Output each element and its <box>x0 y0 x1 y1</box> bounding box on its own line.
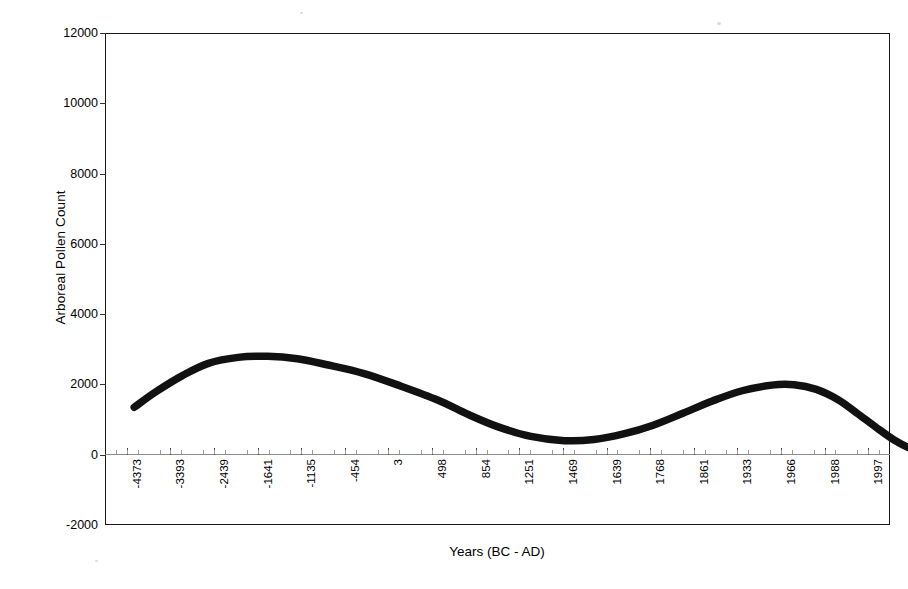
x-minor-tick <box>247 450 248 454</box>
y-tick-label: 0 <box>0 448 98 462</box>
chart-figure: Arboreal Pollen Count 120001000080006000… <box>0 0 908 589</box>
x-minor-tick <box>617 450 618 454</box>
y-tick-mark <box>100 103 106 104</box>
x-minor-tick <box>203 450 204 454</box>
y-tick-mark <box>100 384 106 385</box>
x-minor-tick <box>694 450 695 454</box>
x-minor-tick <box>225 450 226 454</box>
x-minor-tick <box>781 450 782 454</box>
x-minor-tick <box>792 450 793 454</box>
y-tick-label: 6000 <box>0 237 98 251</box>
x-minor-tick <box>530 450 531 454</box>
x-minor-tick <box>705 450 706 454</box>
x-minor-tick <box>737 450 738 454</box>
x-tick-label: 1251 <box>524 459 536 485</box>
x-minor-tick <box>388 450 389 454</box>
x-minor-tick <box>476 450 477 454</box>
y-tick-label: 12000 <box>0 26 98 40</box>
y-axis-ticks: 120001000080006000400020000-2000 <box>0 0 908 589</box>
x-minor-tick <box>465 450 466 454</box>
x-minor-tick <box>868 450 869 454</box>
x-minor-tick <box>650 450 651 454</box>
y-tick-label: 4000 <box>0 307 98 321</box>
x-tick-label: -1641 <box>263 459 275 488</box>
x-minor-tick <box>607 450 608 454</box>
x-minor-tick <box>290 450 291 454</box>
x-minor-tick <box>814 450 815 454</box>
x-minor-tick <box>127 450 128 454</box>
y-tick-mark <box>100 314 106 315</box>
x-tick-label: 1997 <box>873 459 885 485</box>
x-minor-tick <box>443 450 444 454</box>
x-minor-tick <box>487 450 488 454</box>
x-minor-tick <box>258 450 259 454</box>
x-minor-tick <box>334 450 335 454</box>
x-minor-tick <box>563 450 564 454</box>
x-tick-label: -4373 <box>132 459 144 488</box>
x-minor-tick <box>399 450 400 454</box>
x-minor-tick <box>639 450 640 454</box>
x-tick-label: 1639 <box>612 459 624 485</box>
x-minor-tick <box>138 450 139 454</box>
x-minor-tick <box>301 450 302 454</box>
y-tick-label: 8000 <box>0 167 98 181</box>
x-tick-label: 1933 <box>742 459 754 485</box>
x-tick-label: 1861 <box>699 459 711 485</box>
x-minor-tick <box>269 450 270 454</box>
y-tick-mark <box>100 244 106 245</box>
x-minor-tick <box>508 450 509 454</box>
x-minor-tick <box>857 450 858 454</box>
y-tick-label: 10000 <box>0 96 98 110</box>
x-tick-label: -1135 <box>306 459 318 488</box>
x-minor-tick <box>432 450 433 454</box>
x-minor-tick <box>116 450 117 454</box>
x-minor-tick <box>879 450 880 454</box>
x-tick-label: -454 <box>350 459 362 482</box>
y-tick-label: 2000 <box>0 377 98 391</box>
x-minor-tick <box>421 450 422 454</box>
x-tick-label: 1768 <box>655 459 667 485</box>
x-tick-label: 498 <box>437 459 449 478</box>
x-minor-tick <box>770 450 771 454</box>
x-minor-tick <box>726 450 727 454</box>
x-tick-label: 1966 <box>786 459 798 485</box>
y-tick-mark <box>100 33 106 34</box>
x-axis-title: Years (BC - AD) <box>0 544 908 559</box>
x-minor-tick <box>825 450 826 454</box>
x-tick-label: 854 <box>481 459 493 478</box>
x-tick-label: 3 <box>393 459 405 465</box>
x-tick-label: -2439 <box>219 459 231 488</box>
x-minor-tick <box>596 450 597 454</box>
x-minor-tick <box>356 450 357 454</box>
x-minor-tick <box>574 450 575 454</box>
x-axis-title-text: Years (BC - AD) <box>363 544 545 559</box>
x-minor-tick <box>181 450 182 454</box>
x-minor-tick <box>214 450 215 454</box>
x-minor-tick <box>345 450 346 454</box>
y-tick-mark <box>100 174 106 175</box>
y-tick-label: -2000 <box>0 518 98 532</box>
x-minor-tick <box>748 450 749 454</box>
x-minor-tick <box>160 450 161 454</box>
x-minor-tick <box>835 450 836 454</box>
x-minor-tick <box>312 450 313 454</box>
x-tick-label: 1988 <box>830 459 842 485</box>
x-minor-tick <box>683 450 684 454</box>
x-minor-tick <box>552 450 553 454</box>
x-tick-label: -3393 <box>175 459 187 488</box>
y-tick-mark <box>100 455 106 456</box>
x-minor-tick <box>661 450 662 454</box>
x-tick-label: 1469 <box>568 459 580 485</box>
x-minor-tick <box>519 450 520 454</box>
x-minor-tick <box>378 450 379 454</box>
x-minor-tick <box>170 450 171 454</box>
